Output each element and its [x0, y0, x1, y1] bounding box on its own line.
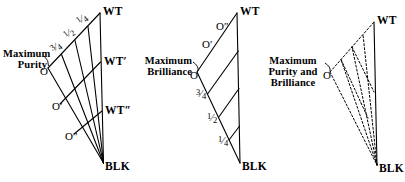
- panel1-vertex-wt-prime: WT′: [104, 55, 127, 67]
- panel3-vertex-wt: WT: [377, 14, 397, 26]
- panel2-frac34-numerator: 3: [196, 87, 200, 97]
- panel2-chord-quarter: [229, 126, 240, 140]
- panel2-vertex-blk: BLK: [242, 160, 267, 172]
- panel2-caption-line2: Brilliance: [132, 66, 192, 77]
- panel2-frac14-denominator: 4: [224, 138, 228, 148]
- panel2-chord-half: [219, 89, 240, 118]
- panel1-o-to-blk: [48, 68, 104, 163]
- panel2-fraction-one-quarter: 1⁄4: [218, 136, 228, 147]
- panel2-caption: Maximum Brilliance: [132, 55, 192, 77]
- panel3-caption-line3: Brilliance: [262, 77, 324, 88]
- panel3-point-o: O: [323, 70, 331, 82]
- panel1-point-o-double-prime: O″: [65, 131, 78, 143]
- panel2-caption-line1: Maximum: [132, 55, 192, 66]
- panel2-chord-three-quarter: [208, 51, 239, 94]
- panel2-frac14-numerator: 1: [218, 134, 222, 144]
- panel2-fraction-three-quarters: 3⁄4: [196, 89, 206, 100]
- panel3-caption: Maximum Purity and Brilliance: [262, 55, 324, 88]
- figure-canvas: Maximum Purity O O′ O″ WT WT′ WT″ BLK 3⁄…: [0, 0, 405, 182]
- panel1-caption-line1: Maximum: [3, 48, 47, 59]
- panel2-frac34-denominator: 4: [202, 91, 206, 101]
- panel1-point-o: O: [40, 66, 48, 78]
- panel2-frac12-numerator: 1: [207, 111, 211, 121]
- panel3-caption-line2: Purity and: [262, 66, 324, 77]
- panel3-fan-2: [352, 47, 377, 165]
- panel2-vertex-wt: WT: [240, 5, 260, 17]
- panel1-vertex-wt: WT: [103, 5, 123, 17]
- panel1-vertex-wt-double-prime: WT″: [105, 104, 131, 116]
- panel2-wt-blk-axis: [237, 13, 240, 163]
- panel2-point-o-prime: O′: [202, 39, 212, 51]
- panel1-point-o-prime: O′: [52, 101, 62, 113]
- panel1-vertex-blk: BLK: [105, 160, 130, 172]
- panel3-chord-4: [367, 77, 375, 93]
- panel2-frac12-denominator: 2: [213, 115, 217, 125]
- panel2-point-o-double-prime: O″: [216, 21, 229, 33]
- panel2-fraction-one-half: 1⁄2: [207, 113, 217, 124]
- panel3-chord-2: [352, 47, 367, 77]
- panel-purity-brilliance-dashed-lines: [330, 22, 377, 165]
- panel3-vertex-blk: BLK: [379, 162, 404, 174]
- panel3-caption-line1: Maximum: [262, 55, 324, 66]
- panel3-chord-1: [341, 60, 351, 82]
- panel2-point-o: O: [190, 70, 198, 82]
